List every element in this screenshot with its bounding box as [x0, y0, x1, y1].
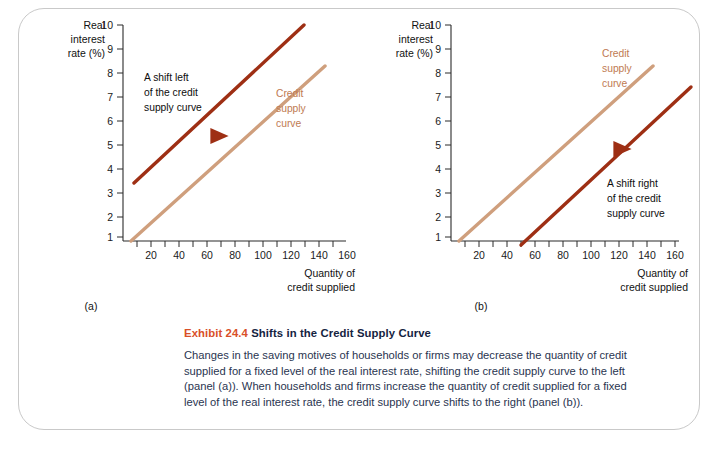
y-tick-7: 7 — [107, 91, 113, 103]
x-tick-labels-b: 20 40 60 80 100 120 140 160 — [473, 249, 684, 261]
y-tick-9: 9 — [107, 43, 113, 55]
y-ticks-a — [117, 25, 123, 237]
panel-a: 10 9 8 7 6 5 4 3 2 1 — [31, 9, 371, 314]
x-axis-label-b: Quantity of credit supplied — [620, 267, 688, 293]
curve-label-b-line-1: supply — [602, 63, 633, 74]
x-tick-20: 20 — [473, 249, 485, 261]
shift-left-annotation-line-0: A shift left — [144, 72, 189, 83]
x-ticks-b — [465, 241, 675, 247]
panel-b-caption: (b) — [311, 300, 651, 312]
y-tick-3: 3 — [107, 187, 113, 199]
panel-b: 10 9 8 7 6 5 4 3 2 1 — [359, 9, 699, 314]
y-tick-6: 6 — [107, 115, 113, 127]
credit-supply-curve-label-a: Credit supply curve — [276, 88, 307, 129]
shift-right-annotation-line-0: A shift right — [607, 178, 658, 189]
x-tick-40: 40 — [173, 249, 185, 261]
y-tick-1: 1 — [435, 231, 441, 243]
exhibit-number: Exhibit 24.4 — [184, 327, 248, 339]
x-axis-label-line-0: Quantity of — [304, 267, 355, 279]
x-axis-label-line-0: Quantity of — [637, 267, 688, 279]
shift-right-annotation: A shift right of the credit supply curve — [607, 178, 665, 219]
x-axis-label-a: Quantity of credit supplied — [287, 267, 355, 293]
y-tick-8: 8 — [107, 67, 113, 79]
shift-left-annotation-line-2: supply curve — [144, 102, 202, 113]
y-axis-label-a: Real interest rate (%) — [68, 19, 105, 59]
y-tick-2: 2 — [107, 211, 113, 223]
x-tick-100: 100 — [582, 249, 600, 261]
y-tick-3: 3 — [435, 187, 441, 199]
curve-label-b-line-2: curve — [602, 78, 627, 89]
x-tick-labels-a: 20 40 60 80 100 120 140 160 — [145, 249, 356, 261]
x-tick-140: 140 — [310, 249, 328, 261]
y-tick-6: 6 — [435, 115, 441, 127]
x-tick-100: 100 — [254, 249, 272, 261]
x-tick-80: 80 — [229, 249, 241, 261]
panel-a-plot: 10 9 8 7 6 5 4 3 2 1 — [31, 9, 371, 299]
x-tick-60: 60 — [201, 249, 213, 261]
x-tick-20: 20 — [145, 249, 157, 261]
x-tick-40: 40 — [501, 249, 513, 261]
x-tick-60: 60 — [529, 249, 541, 261]
y-axis-label-line-1: interest — [71, 33, 106, 45]
y-tick-4: 4 — [435, 163, 441, 175]
exhibit-body-text: Changes in the saving motives of househo… — [184, 348, 639, 410]
shift-left-annotation: A shift left of the credit supply curve — [144, 72, 202, 113]
x-tick-160: 160 — [666, 249, 684, 261]
x-tick-120: 120 — [282, 249, 300, 261]
x-tick-140: 140 — [638, 249, 656, 261]
shifted-credit-supply-curve-b — [521, 87, 691, 245]
y-axis-label-line-0: Real — [411, 19, 433, 31]
curve-label-a-line-2: curve — [276, 118, 301, 129]
y-axis-label-line-2: rate (%) — [396, 47, 433, 59]
y-tick-8: 8 — [435, 67, 441, 79]
x-ticks-a — [137, 241, 333, 247]
x-axis-label-line-1: credit supplied — [287, 281, 355, 293]
exhibit-title: Exhibit 24.4 Shifts in the Credit Supply… — [184, 327, 639, 339]
curve-label-a-line-0: Credit — [276, 88, 304, 99]
y-axis-label-b: Real interest rate (%) — [396, 19, 433, 59]
shift-right-annotation-line-2: supply curve — [607, 208, 665, 219]
panel-a-caption: (a) — [0, 300, 261, 312]
curve-label-a-line-1: supply — [276, 103, 307, 114]
y-tick-2: 2 — [435, 211, 441, 223]
curve-label-b-line-0: Credit — [602, 48, 630, 59]
y-tick-1: 1 — [107, 231, 113, 243]
y-axis-label-line-2: rate (%) — [68, 47, 105, 59]
exhibit-title-text: Shifts in the Credit Supply Curve — [251, 327, 431, 339]
x-axis-label-line-1: credit supplied — [620, 281, 688, 293]
y-axis-label-line-1: interest — [399, 33, 434, 45]
y-tick-5: 5 — [107, 139, 113, 151]
panel-b-plot: 10 9 8 7 6 5 4 3 2 1 — [359, 9, 699, 299]
charts-region: 10 9 8 7 6 5 4 3 2 1 — [19, 9, 701, 314]
exhibit-container: 10 9 8 7 6 5 4 3 2 1 — [18, 8, 700, 430]
y-axis-label-line-0: Real — [83, 19, 105, 31]
x-tick-80: 80 — [557, 249, 569, 261]
shift-right-annotation-line-1: of the credit — [607, 193, 661, 204]
y-tick-5: 5 — [435, 139, 441, 151]
x-tick-120: 120 — [610, 249, 628, 261]
x-tick-160: 160 — [338, 249, 356, 261]
y-tick-9: 9 — [435, 43, 441, 55]
exhibit-caption-block: Exhibit 24.4 Shifts in the Credit Supply… — [184, 327, 639, 410]
y-ticks-b — [445, 25, 451, 237]
y-tick-7: 7 — [435, 91, 441, 103]
y-tick-4: 4 — [107, 163, 113, 175]
shift-left-annotation-line-1: of the credit — [144, 87, 198, 98]
credit-supply-curve-label-b: Credit supply curve — [602, 48, 633, 89]
